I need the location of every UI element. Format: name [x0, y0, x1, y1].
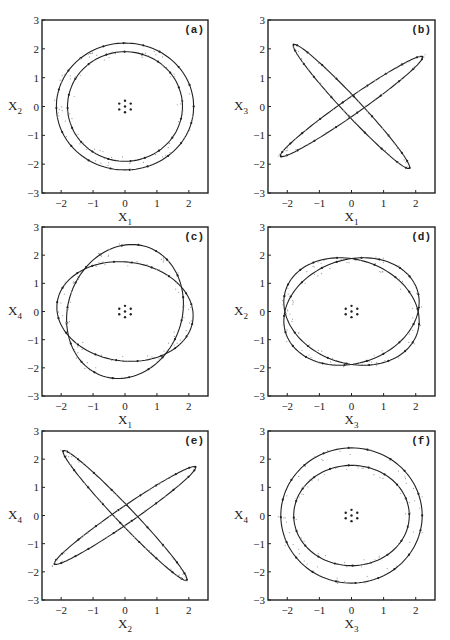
- y-tick-label: 0: [260, 510, 266, 522]
- y-tick-label: −2: [253, 566, 265, 578]
- y-tick-label: 1: [260, 481, 266, 493]
- plot-f: −3−2−10123−2−1012(f): [0, 0, 450, 640]
- y-axis-label: X4: [234, 507, 248, 525]
- fixed-point: [356, 511, 358, 513]
- fixed-point: [345, 511, 347, 513]
- fixed-point: [345, 517, 347, 519]
- y-tick-label: 2: [260, 453, 266, 465]
- x-tick-label: −2: [281, 604, 293, 616]
- y-tick-label: 3: [260, 425, 266, 437]
- fixed-point: [350, 520, 352, 522]
- x-axis-label: X3: [332, 616, 372, 634]
- panel-tag: (f): [411, 435, 431, 447]
- x-tick-label: −1: [314, 604, 326, 616]
- x-tick-label: 1: [381, 604, 387, 616]
- fixed-point: [350, 509, 352, 511]
- fixed-point: [356, 517, 358, 519]
- y-tick-label: −3: [253, 594, 265, 606]
- x-tick-label: 0: [349, 604, 355, 616]
- fixed-point: [350, 514, 352, 516]
- y-tick-label: −1: [253, 538, 265, 550]
- x-tick-label: 2: [413, 604, 419, 616]
